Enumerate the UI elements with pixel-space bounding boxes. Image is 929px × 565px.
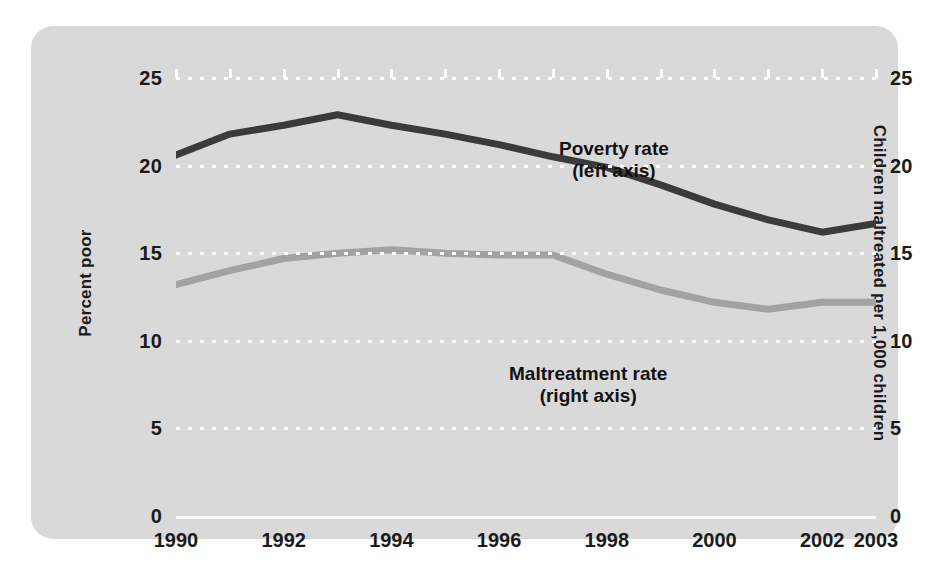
y-axis-left-tick-5: 5 — [151, 418, 162, 438]
x-axis-line — [176, 516, 876, 519]
series-lines — [176, 78, 876, 516]
gridline-25 — [176, 77, 876, 80]
chart-panel: Percent poor Children maltreated per 1,0… — [31, 26, 898, 539]
x-axis-label-1994: 1994 — [369, 530, 414, 550]
x-axis-label-2003: 2003 — [854, 530, 899, 550]
y-axis-right-tick-10: 10 — [890, 331, 913, 351]
x-axis-label-1998: 1998 — [585, 530, 630, 550]
y-axis-left-tick-20: 20 — [139, 156, 162, 176]
y-axis-left-title: Percent poor — [71, 26, 101, 539]
x-axis-tick-1998 — [606, 69, 609, 78]
maltreatment-rate-annotation: Maltreatment rate (right axis) — [509, 363, 667, 408]
x-axis-tick-1993 — [337, 69, 340, 78]
poverty-rate-annotation-line1: Poverty rate — [559, 138, 669, 160]
x-axis-label-1990: 1990 — [154, 530, 199, 550]
plot-area: 0510152025 0510152025 199019921994199619… — [176, 78, 876, 516]
x-axis-tick-1992 — [283, 69, 286, 78]
x-axis-label-1992: 1992 — [261, 530, 306, 550]
x-axis-tick-1996 — [498, 69, 501, 78]
y-axis-left-tick-15: 15 — [139, 243, 162, 263]
y-axis-right-tick-5: 5 — [890, 418, 901, 438]
x-axis-tick-1994 — [390, 69, 393, 78]
y-axis-right-tick-25: 25 — [890, 68, 913, 88]
y-axis-left-tick-0: 0 — [151, 506, 162, 526]
maltreatment-rate-annotation-line2: (right axis) — [509, 385, 667, 407]
maltreatment-rate-annotation-line1: Maltreatment rate — [509, 363, 667, 385]
gridline-5 — [176, 427, 876, 430]
maltreatment-rate-line — [176, 250, 876, 310]
y-axis-left-title-text: Percent poor — [76, 229, 96, 336]
x-axis-tick-2003 — [875, 69, 878, 78]
x-axis-tick-2000 — [713, 69, 716, 78]
x-axis-label-2000: 2000 — [692, 530, 737, 550]
x-axis-tick-1991 — [229, 69, 232, 78]
x-axis-tick-1997 — [552, 69, 555, 78]
gridline-20 — [176, 165, 876, 168]
x-axis-tick-2001 — [767, 69, 770, 78]
x-axis-tick-1999 — [660, 69, 663, 78]
gridline-10 — [176, 340, 876, 343]
y-axis-right-tick-0: 0 — [890, 506, 901, 526]
x-axis-tick-1990 — [175, 69, 178, 78]
chart-figure: Percent poor Children maltreated per 1,0… — [0, 0, 929, 565]
y-axis-right-tick-15: 15 — [890, 243, 913, 263]
x-axis-label-2002: 2002 — [800, 530, 845, 550]
x-axis-tick-1995 — [444, 69, 447, 78]
poverty-rate-line — [176, 115, 876, 232]
y-axis-right-tick-20: 20 — [890, 156, 913, 176]
x-axis-tick-2002 — [821, 69, 824, 78]
y-axis-left-tick-25: 25 — [139, 68, 162, 88]
y-axis-left-tick-10: 10 — [139, 331, 162, 351]
poverty-rate-annotation: Poverty rate (left axis) — [559, 138, 669, 183]
gridline-15 — [176, 252, 876, 255]
poverty-rate-annotation-line2: (left axis) — [559, 160, 669, 182]
x-axis-label-1996: 1996 — [477, 530, 522, 550]
